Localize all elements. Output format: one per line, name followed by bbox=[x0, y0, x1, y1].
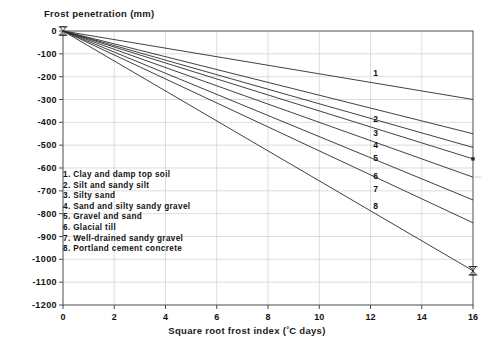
legend-item: 7. Well-drained sandy gravel bbox=[63, 234, 190, 245]
legend-item: 4. Sand and silty sandy gravel bbox=[63, 202, 190, 213]
series-number-label-1: 1 bbox=[373, 68, 378, 78]
y-tick-label: -1100 bbox=[11, 277, 57, 287]
series-4-endpoint-dot bbox=[471, 157, 474, 160]
x-tick-label: 12 bbox=[356, 312, 386, 322]
y-tick-label: -1200 bbox=[11, 300, 57, 310]
legend-item: 8. Portland cement concrete bbox=[63, 244, 190, 255]
series-number-label-5: 5 bbox=[373, 153, 378, 163]
x-tick-label: 10 bbox=[304, 312, 334, 322]
x-tick-label: 2 bbox=[99, 312, 129, 322]
x-tick-label: 8 bbox=[253, 312, 283, 322]
series-number-label-3: 3 bbox=[373, 128, 378, 138]
y-tick-label: -300 bbox=[11, 95, 57, 105]
x-tick-label: 6 bbox=[202, 312, 232, 322]
y-tick-label: -800 bbox=[11, 209, 57, 219]
y-tick-label: -400 bbox=[11, 117, 57, 127]
x-tick-label: 4 bbox=[151, 312, 181, 322]
y-tick-label: -700 bbox=[11, 186, 57, 196]
y-tick-label: -200 bbox=[11, 72, 57, 82]
y-tick-label: -600 bbox=[11, 163, 57, 173]
series-number-label-2: 2 bbox=[373, 114, 378, 124]
x-tick-label: 16 bbox=[458, 312, 488, 322]
x-axis-title: Square root frost index (°C days) bbox=[0, 325, 494, 336]
legend-item: 1. Clay and damp top soil bbox=[63, 170, 190, 181]
legend-item: 5. Gravel and sand bbox=[63, 212, 190, 223]
x-tick-label: 0 bbox=[48, 312, 78, 322]
legend-item: 6. Glacial till bbox=[63, 223, 190, 234]
legend-item: 2. Silt and sandy silt bbox=[63, 181, 190, 192]
legend-item: 3. Silty sand bbox=[63, 191, 190, 202]
y-tick-label: -900 bbox=[11, 232, 57, 242]
y-tick-label: -100 bbox=[11, 49, 57, 59]
series-number-label-7: 7 bbox=[373, 184, 378, 194]
legend: 1. Clay and damp top soil2. Silt and san… bbox=[63, 170, 190, 255]
x-axis-title-prefix: Square root frost index ( bbox=[168, 325, 286, 336]
y-tick-label: 0 bbox=[11, 26, 57, 36]
series-number-label-6: 6 bbox=[373, 171, 378, 181]
x-tick-label: 14 bbox=[407, 312, 437, 322]
series-number-label-8: 8 bbox=[373, 201, 378, 211]
series-number-label-4: 4 bbox=[373, 140, 378, 150]
x-axis-title-suffix: C days) bbox=[289, 325, 325, 336]
frost-penetration-chart: Frost penetration (mm) 0-100-200-300-400… bbox=[0, 0, 494, 347]
y-tick-label: -1000 bbox=[11, 254, 57, 264]
y-tick-label: -500 bbox=[11, 140, 57, 150]
